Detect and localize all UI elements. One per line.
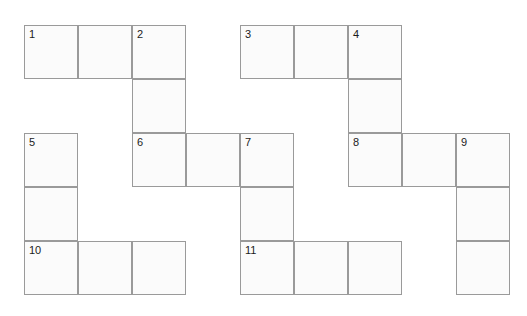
- crossword-cell[interactable]: [402, 133, 456, 187]
- crossword-cell[interactable]: 2: [132, 25, 186, 79]
- crossword-cell-number: 4: [353, 27, 359, 41]
- crossword-cell[interactable]: [456, 187, 510, 241]
- crossword-cell[interactable]: [78, 241, 132, 295]
- crossword-cell-number: 9: [461, 135, 467, 149]
- crossword-cell[interactable]: 7: [240, 133, 294, 187]
- crossword-cell-number: 11: [245, 243, 256, 257]
- crossword-cell[interactable]: 1: [24, 25, 78, 79]
- crossword-cell[interactable]: 9: [456, 133, 510, 187]
- crossword-cell[interactable]: [240, 187, 294, 241]
- crossword-cell[interactable]: [294, 241, 348, 295]
- crossword-cell[interactable]: [348, 79, 402, 133]
- crossword-cell-number: 1: [29, 27, 35, 41]
- crossword-cell[interactable]: [78, 25, 132, 79]
- crossword-cell-number: 2: [137, 27, 143, 41]
- crossword-cell[interactable]: 3: [240, 25, 294, 79]
- crossword-cell[interactable]: 5: [24, 133, 78, 187]
- crossword-cell[interactable]: [132, 241, 186, 295]
- crossword-cell[interactable]: [456, 241, 510, 295]
- crossword-cell-number: 7: [245, 135, 251, 149]
- crossword-cell-number: 8: [353, 135, 359, 149]
- crossword-cell[interactable]: 6: [132, 133, 186, 187]
- crossword-cell-number: 10: [29, 243, 41, 257]
- crossword-cell[interactable]: [186, 133, 240, 187]
- crossword-cell[interactable]: [132, 79, 186, 133]
- crossword-cell[interactable]: [348, 241, 402, 295]
- crossword-cell[interactable]: [24, 187, 78, 241]
- crossword-cell-number: 6: [137, 135, 143, 149]
- crossword-cell[interactable]: [294, 25, 348, 79]
- crossword-cell-number: 5: [29, 135, 35, 149]
- crossword-puzzle-page: 1234567891011: [0, 0, 527, 316]
- crossword-cell[interactable]: 8: [348, 133, 402, 187]
- crossword-grid: 1234567891011: [0, 0, 527, 316]
- crossword-cell-number: 3: [245, 27, 251, 41]
- crossword-cell[interactable]: 4: [348, 25, 402, 79]
- crossword-cell[interactable]: 10: [24, 241, 78, 295]
- crossword-cell[interactable]: 11: [240, 241, 294, 295]
